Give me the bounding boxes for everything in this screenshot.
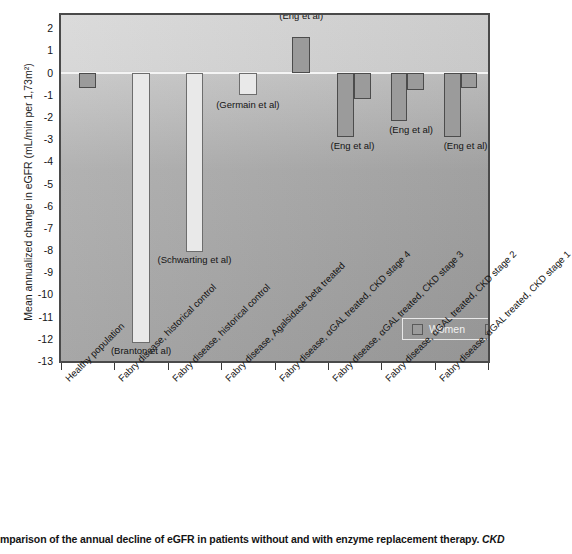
data-annotation: (Eng et al) [389,124,433,135]
bar-women light[interactable] [186,73,204,253]
y-tick-label: -1 [44,89,53,101]
figure-caption: mparison of the annual decline of eGFR i… [0,533,520,545]
bar-women[interactable] [391,73,408,122]
legend-swatch [412,324,423,335]
y-tick-label: -9 [44,266,53,278]
y-tick-label: -5 [44,178,53,190]
y-tick-label: -6 [44,200,53,212]
bar-men[interactable] [407,73,424,91]
bar-women light[interactable] [239,73,257,95]
data-annotation: (Eng et al) [444,140,488,151]
caption-text: mparison of the annual decline of eGFR i… [0,533,479,545]
y-tick-label: -7 [44,222,53,234]
y-tick-label: 0 [47,67,53,79]
y-tick-label: -8 [44,244,53,256]
plot-area: (Branton et al)(Schwarting et al)(Germai… [59,13,490,363]
y-tick-label: -12 [38,333,53,345]
y-tick-label: -11 [39,311,53,323]
y-axis: 210-1-2-3-4-5-6-7-8-9-10-11-12-13 [0,13,59,363]
y-tick-label: 2 [47,22,53,34]
data-annotation: (Schwarting et al) [157,254,231,265]
y-tick-label: 1 [47,44,53,56]
bars-layer [61,15,488,361]
data-annotation: (Eng et al) [279,13,323,21]
y-tick-label: -10 [38,288,53,300]
y-tick-label: -3 [44,133,53,145]
x-axis [59,363,490,364]
caption-italic-tail: CKD [479,533,504,545]
bar-men[interactable] [461,73,478,89]
bar-group [114,15,167,361]
data-annotation: (Germain et al) [216,99,279,110]
bar-women light[interactable] [132,73,150,344]
y-tick-label: -4 [44,155,53,167]
y-tick-label: -2 [44,111,53,123]
bar-women[interactable] [444,73,461,137]
bar-group [61,15,114,361]
bar-women[interactable] [292,37,310,72]
x-axis-labels: Healthy populationFabry disease, histori… [0,366,501,526]
bar-women[interactable] [337,73,354,137]
data-annotation: (Eng et al) [331,140,375,151]
bar-men[interactable] [354,73,371,100]
bar-women[interactable] [79,73,97,89]
